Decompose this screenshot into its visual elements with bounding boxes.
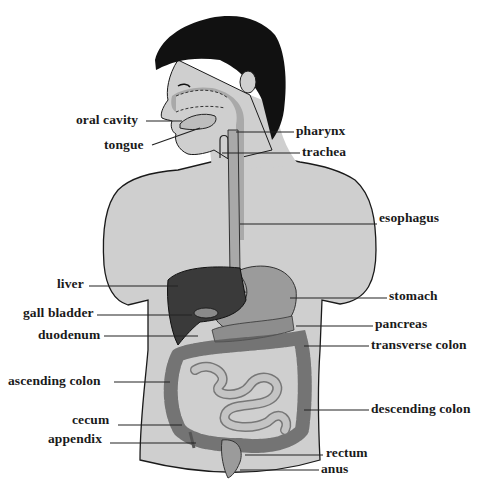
label-oral-cavity: oral cavity [76,113,138,127]
label-rectum: rectum [326,446,368,460]
label-pancreas: pancreas [375,317,427,331]
label-anus: anus [321,462,348,476]
ear [240,71,256,93]
gall-bladder-shape [194,308,218,318]
label-trachea: trachea [302,145,346,159]
label-appendix: appendix [48,432,102,446]
label-transverse-colon: transverse colon [371,338,467,352]
label-esophagus: esophagus [379,211,439,225]
label-cecum: cecum [72,413,109,427]
label-liver: liver [57,277,84,291]
label-duodenum: duodenum [38,328,100,342]
label-gall-bladder: gall bladder [23,306,94,320]
label-stomach: stomach [389,289,438,303]
label-descending-colon: descending colon [371,402,471,416]
label-ascending-colon: ascending colon [8,374,101,388]
label-pharynx: pharynx [296,124,345,138]
label-tongue: tongue [104,138,144,152]
